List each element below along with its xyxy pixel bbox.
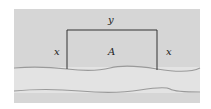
diagram-lines — [0, 0, 211, 109]
lower-riverbank — [14, 88, 200, 93]
label-right-side: x — [166, 47, 172, 57]
label-top-side: y — [108, 15, 114, 25]
label-area: A — [108, 47, 115, 57]
upper-riverbank — [14, 66, 200, 71]
label-left-side: x — [54, 47, 60, 57]
